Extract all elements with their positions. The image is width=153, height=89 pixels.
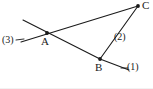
point-label-c: C [142, 0, 149, 11]
line-label-ray3: (3) [2, 35, 14, 45]
line-label-ray1: (1) [127, 62, 139, 72]
point-label-b: B [95, 62, 102, 73]
leader-line-ray3-icon [16, 39, 24, 40]
figure-bottom-edge [0, 88, 153, 89]
line-label-ray2: (2) [114, 32, 126, 42]
figure-canvas [0, 0, 153, 89]
geometry-figure: A B C (1) (2) (3) [0, 0, 153, 89]
point-label-a: A [41, 36, 49, 47]
vertex-dot-c [136, 4, 140, 8]
segment-upper-left-through-a [23, 20, 100, 59]
